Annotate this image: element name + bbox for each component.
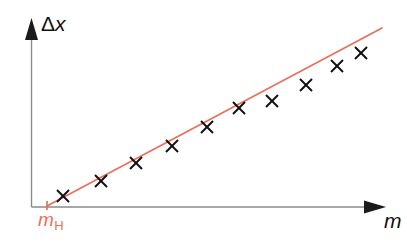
data-point-marker (166, 140, 178, 152)
y-axis-variable-symbol: x (55, 12, 66, 35)
x-intercept-label: mH (38, 210, 64, 232)
data-point-marker (266, 95, 278, 107)
y-axis-arrowhead (25, 18, 38, 40)
data-point-marker (300, 79, 312, 91)
data-point-group (57, 47, 367, 202)
x-intercept-base-symbol: m (38, 209, 54, 230)
data-point-marker (201, 121, 213, 133)
data-point-marker (355, 47, 367, 59)
x-axis-arrowhead (364, 201, 386, 214)
y-axis-delta-symbol: Δ (41, 12, 55, 35)
figure-container: m Δx m mH (0, 0, 407, 252)
y-axis-label: m Δx (41, 13, 66, 34)
x-axis-label: m (384, 210, 402, 231)
data-point-marker (331, 60, 343, 72)
trend-line (47, 28, 382, 206)
x-intercept-subscript: H (54, 218, 63, 233)
